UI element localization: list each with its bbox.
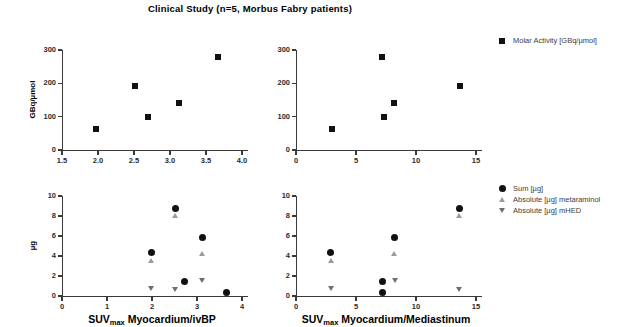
x-axis-line	[62, 150, 248, 151]
data-point-circle	[327, 249, 334, 256]
y-tick	[292, 83, 296, 84]
data-point-square	[176, 100, 182, 106]
x-tick-label: 4	[227, 302, 257, 311]
chart-panel-bottom-left: 024681001234µgSUVmax Myocardium/ivBP	[62, 196, 242, 296]
y-axis-label: µg	[28, 211, 37, 281]
y-tick	[58, 235, 62, 236]
y-tick-label: 4	[262, 251, 290, 260]
x-axis-line	[296, 150, 482, 151]
legend-top-label: Molar Activity [GBq/µmol]	[513, 35, 597, 46]
data-point-square	[381, 114, 387, 120]
data-point-circle	[379, 278, 386, 285]
y-tick-label: 6	[262, 231, 290, 240]
x-tick	[106, 297, 107, 301]
x-axis-label-subscript: max	[110, 318, 125, 327]
x-tick	[205, 151, 206, 155]
y-tick-label: 100	[262, 112, 290, 121]
x-tick	[295, 297, 296, 301]
x-tick	[61, 297, 62, 301]
x-tick	[151, 297, 152, 301]
y-tick	[292, 295, 296, 296]
y-tick	[58, 275, 62, 276]
data-point-triangle-down	[199, 278, 205, 283]
data-point-triangle-down	[148, 286, 154, 291]
x-tick-label: 1.5	[47, 156, 77, 165]
data-point-circle	[223, 289, 230, 296]
y-tick	[292, 49, 296, 50]
x-tick-label: 2.5	[119, 156, 149, 165]
data-point-triangle-down	[392, 278, 398, 283]
x-tick-label: 2	[137, 302, 167, 311]
y-tick-label: 300	[28, 45, 56, 54]
data-point-triangle-up	[148, 258, 154, 263]
data-point-triangle-down	[172, 287, 178, 292]
legend-marker-square	[499, 38, 505, 44]
chart-panel-bottom-right: 0246810051015SUVmax Myocardium/Mediastin…	[296, 196, 476, 296]
x-tick-label: 3.5	[191, 156, 221, 165]
x-tick-label: 15	[461, 302, 491, 311]
legend-marker-circle	[499, 185, 506, 192]
y-axis-line	[62, 196, 63, 297]
y-tick-label: 0	[262, 145, 290, 154]
data-point-square	[379, 54, 385, 60]
x-tick	[169, 151, 170, 155]
x-tick	[97, 151, 98, 155]
x-tick	[475, 151, 476, 155]
x-tick	[415, 297, 416, 301]
y-tick-label: 10	[28, 191, 56, 200]
y-tick	[292, 235, 296, 236]
data-point-circle	[172, 205, 179, 212]
data-point-square	[93, 126, 99, 132]
data-point-square	[391, 100, 397, 106]
data-point-triangle-up	[391, 251, 397, 256]
legend-bottom-label: Sum [µg]	[513, 183, 543, 194]
x-tick	[61, 151, 62, 155]
data-point-triangle-down	[456, 287, 462, 292]
x-axis-label-suv: SUV	[88, 313, 110, 325]
x-tick-label: 10	[401, 302, 431, 311]
y-axis-line	[296, 196, 297, 297]
x-tick-label: 4.0	[227, 156, 257, 165]
x-tick	[241, 151, 242, 155]
y-tick	[58, 195, 62, 196]
data-point-square	[457, 83, 463, 89]
data-point-circle	[148, 249, 155, 256]
x-tick	[196, 297, 197, 301]
y-tick-label: 0	[28, 145, 56, 154]
x-tick	[355, 151, 356, 155]
x-tick-label: 5	[341, 156, 371, 165]
y-tick-label: 0	[262, 291, 290, 300]
legend-marker-triangle-up	[499, 197, 505, 202]
x-tick	[475, 297, 476, 301]
x-axis-label-main: Myocardium/Mediastinum	[338, 313, 470, 325]
data-point-square	[215, 54, 221, 60]
data-point-triangle-up	[199, 251, 205, 256]
data-point-circle	[391, 234, 398, 241]
x-tick-label: 3	[182, 302, 212, 311]
x-tick	[241, 297, 242, 301]
chart-panel-top-right: 0100200300051015	[296, 50, 476, 150]
data-point-circle	[181, 278, 188, 285]
y-axis-label: GBq/µmol	[28, 65, 37, 135]
x-tick-label: 1	[92, 302, 122, 311]
data-point-triangle-down	[328, 286, 334, 291]
data-point-triangle-up	[172, 213, 178, 218]
x-tick	[355, 297, 356, 301]
data-point-square	[329, 126, 335, 132]
x-axis-line	[62, 296, 248, 297]
y-axis-line	[62, 50, 63, 151]
y-tick-label: 0	[28, 291, 56, 300]
y-tick	[58, 83, 62, 84]
x-axis-label: SUVmax Myocardium/Mediastinum	[266, 313, 506, 325]
y-tick	[58, 116, 62, 117]
data-point-triangle-up	[328, 258, 334, 263]
x-tick	[295, 151, 296, 155]
legend-bottom-label: Absolute [µg] metaraminol	[513, 194, 600, 205]
data-point-square	[132, 83, 138, 89]
y-tick	[58, 255, 62, 256]
y-tick	[292, 255, 296, 256]
figure-title: Clinical Study (n=5, Morbus Fabry patien…	[0, 3, 500, 14]
data-point-triangle-up	[456, 213, 462, 218]
y-tick-label: 300	[262, 45, 290, 54]
